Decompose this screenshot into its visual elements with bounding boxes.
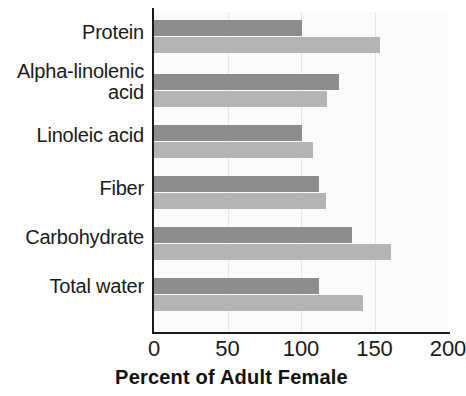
category-label-fiber: Fiber (99, 178, 144, 199)
category-axis-labels: Protein Alpha-linolenic acid Linoleic ac… (0, 0, 150, 330)
x-axis-line (152, 332, 450, 334)
bar (154, 176, 319, 192)
x-tick-label-200: 200 (430, 336, 466, 362)
x-tick-label-50: 50 (215, 336, 239, 362)
bar (154, 244, 391, 260)
bar (154, 295, 363, 311)
bar (154, 20, 302, 36)
x-tick-label-0: 0 (148, 336, 160, 362)
category-label-protein: Protein (82, 22, 144, 43)
bar (154, 278, 319, 294)
gridline-150 (375, 12, 376, 332)
category-label-carbohydrate: Carbohydrate (25, 227, 144, 248)
bar (154, 37, 380, 53)
category-label-alpha-linolenic-acid: Alpha-linolenic acid (17, 61, 144, 103)
y-axis-line (152, 8, 154, 334)
x-axis-title: Percent of Adult Female (0, 366, 463, 389)
plot-area (154, 12, 448, 332)
bar (154, 227, 352, 243)
bar (154, 91, 327, 107)
bar (154, 74, 339, 90)
x-tick-label-150: 150 (356, 336, 393, 362)
category-label-total-water: Total water (49, 276, 144, 297)
bar (154, 193, 326, 209)
bar (154, 125, 302, 141)
category-label-linoleic-acid: Linoleic acid (37, 125, 144, 146)
bar (154, 142, 313, 158)
x-tick-label-100: 100 (283, 336, 320, 362)
